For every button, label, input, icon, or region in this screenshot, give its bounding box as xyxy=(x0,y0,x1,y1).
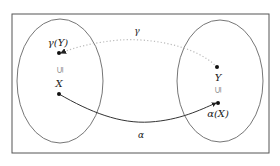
point-alpha-of-X xyxy=(216,101,220,105)
point-Y xyxy=(215,65,219,69)
label-alpha-map: α xyxy=(138,130,144,140)
subset-mark-left: ⊆ xyxy=(55,66,65,74)
set-mapping-diagram: γ(Y) X Y α(X) ⊆ ⊆ γ α xyxy=(0,0,280,166)
point-gamma-of-Y xyxy=(57,51,61,55)
label-gamma-map: γ xyxy=(134,26,140,36)
point-X xyxy=(57,92,61,96)
label-X: X xyxy=(54,78,63,89)
label-Y: Y xyxy=(215,72,223,83)
alpha-map-curve xyxy=(59,94,216,122)
label-gamma-of-Y: γ(Y) xyxy=(48,37,68,48)
gamma-map-curve xyxy=(61,40,217,67)
label-alpha-of-X: α(X) xyxy=(207,108,229,119)
subset-mark-right: ⊆ xyxy=(213,86,223,94)
